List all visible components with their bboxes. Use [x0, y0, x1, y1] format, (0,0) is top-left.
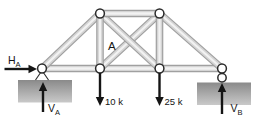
load-arrow-25k	[155, 73, 163, 106]
arrowhead-down-icon	[96, 97, 104, 106]
member-right-end-diagonal	[160, 14, 223, 69]
joint-node-bottom-1	[96, 64, 105, 73]
joint-node-bottom-2	[155, 64, 164, 73]
load-arrow-10k	[96, 73, 104, 106]
label-va: VA	[48, 102, 60, 117]
truss-diagram: HA VA VB 10 k 25 k A	[0, 0, 253, 123]
joint-node-left-support	[38, 64, 47, 73]
label-load-25k: 25 k	[165, 96, 183, 107]
truss-diagram-canvas: HA VA VB 10 k 25 k A	[0, 0, 253, 123]
member-left-end-diagonal	[42, 14, 100, 69]
reaction-arrow-ha	[5, 65, 38, 73]
label-joint-a: A	[108, 40, 116, 52]
ground-block-left	[18, 80, 72, 103]
label-load-10k: 10 k	[105, 96, 123, 107]
joint-node-right-support	[218, 64, 227, 73]
roller-wheel	[218, 74, 226, 82]
joint-node-top-left	[96, 9, 105, 18]
arrowhead-down-icon	[155, 97, 163, 106]
arrowhead-right-icon	[29, 65, 38, 73]
joint-node-top-right	[155, 9, 164, 18]
label-ha: HA	[8, 54, 21, 69]
ground-block-right	[197, 83, 251, 106]
